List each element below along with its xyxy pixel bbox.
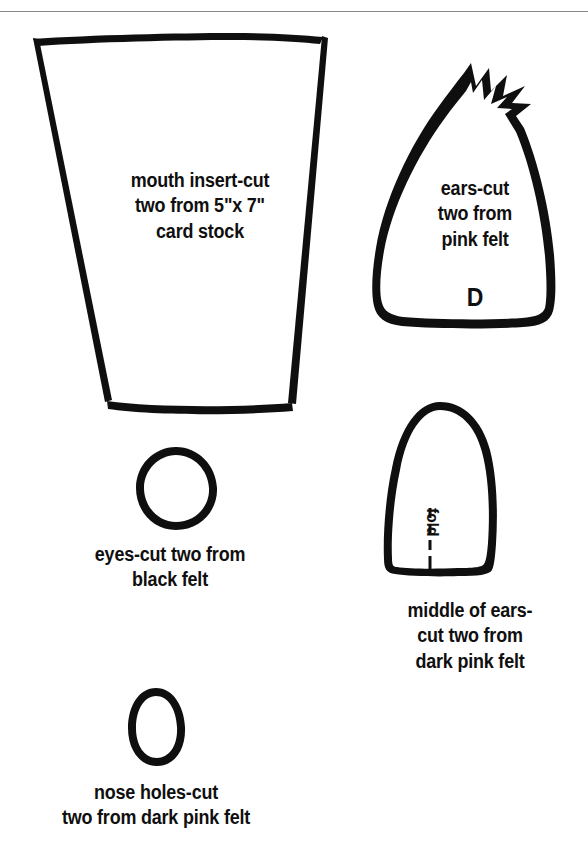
caption-mouth-insert: mouth insert-cut two from 5"x 7" card st… xyxy=(71,168,329,244)
caption-eyes: eyes-cut two from black felt xyxy=(37,542,304,593)
ears-piece-letter: D xyxy=(434,285,517,310)
nose-hole-outline xyxy=(128,688,185,766)
caption-middle-of-ears: middle of ears- cut two from dark pink f… xyxy=(361,598,578,674)
caption-ears: ears-cut two from pink felt xyxy=(401,176,548,252)
middle-of-ears-outline xyxy=(384,402,497,576)
eye-outline xyxy=(136,447,217,530)
pattern-sheet: mouth insert-cut two from 5"x 7" card st… xyxy=(0,0,588,851)
mouth-top-edge xyxy=(33,33,323,46)
piece-middle-of-ears xyxy=(378,398,513,584)
piece-nose-holes xyxy=(118,685,198,771)
piece-eyes xyxy=(128,443,228,535)
fold-label: fold xyxy=(423,508,441,536)
caption-nose-holes: nose holes-cut two from dark pink felt xyxy=(12,780,299,831)
mouth-bottom-edge xyxy=(107,401,293,414)
